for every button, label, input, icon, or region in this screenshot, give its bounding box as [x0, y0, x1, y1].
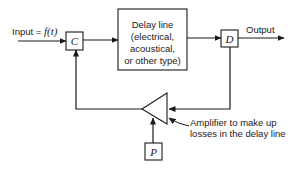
delay-line-block-diagram: Input = f(t) C Delay line (electrical, a… — [0, 0, 297, 175]
svg-text:or other type): or other type) — [124, 55, 181, 66]
svg-text:C: C — [71, 35, 79, 47]
combiner-box-c: C — [66, 32, 83, 50]
annotation-pointer — [169, 118, 189, 126]
svg-text:D: D — [225, 33, 234, 45]
input-label: Input = f(t) — [12, 25, 58, 38]
power-box-p: P — [145, 143, 162, 160]
tap-box-d: D — [221, 30, 238, 47]
svg-text:P: P — [149, 146, 157, 158]
svg-text:(electrical,: (electrical, — [131, 31, 174, 42]
amplifier-icon — [142, 93, 167, 124]
amplifier-note-line1: Amplifier to make up — [190, 117, 277, 128]
delay-line-box: Delay line (electrical, acoustical, or o… — [118, 9, 187, 70]
svg-text:Delay line: Delay line — [132, 19, 174, 30]
amplifier-note-line2: losses in the delay line — [190, 128, 286, 139]
output-label: Output — [246, 24, 275, 35]
svg-text:acoustical,: acoustical, — [130, 43, 175, 54]
